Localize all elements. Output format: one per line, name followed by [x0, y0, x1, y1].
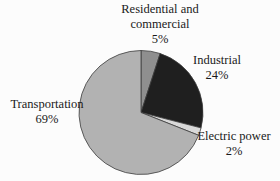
slice-label-pct: 2% [190, 144, 278, 159]
slice-label-text: Electric power [190, 129, 278, 144]
slice-label-pct: 5% [110, 32, 210, 47]
slice-label-electric-power: Electric power 2% [190, 129, 278, 159]
slice-label-residential-commercial: Residential and commercial 5% [110, 2, 210, 47]
slice-label-industrial: Industrial 24% [183, 53, 251, 83]
slice-label-transportation: Transportation 69% [0, 97, 94, 127]
slice-label-text: Residential and commercial [110, 2, 210, 32]
pie-chart-figure: Residential and commercial 5% Industrial… [0, 0, 280, 181]
slice-label-text: Industrial [183, 53, 251, 68]
slice-label-text: Transportation [0, 97, 94, 112]
slice-label-pct: 24% [183, 68, 251, 83]
slice-label-pct: 69% [0, 112, 94, 127]
